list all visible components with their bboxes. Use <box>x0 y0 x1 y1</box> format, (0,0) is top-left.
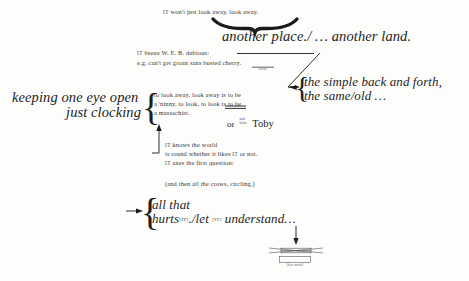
display-let: ./let <box>188 211 208 226</box>
line-top-body-text: won't just look away, look away. <box>170 8 258 15</box>
final-annotation-subtext: (how much) <box>279 264 311 267</box>
up-arrow-to-center-block <box>152 122 166 154</box>
manuscript-page: IT won't just look away, look away. anot… <box>0 0 469 281</box>
final-annotation-text: inset caption <box>270 250 322 253</box>
line-lower-body-3-text: axes the first question: <box>172 159 233 166</box>
small-caps-it: IT <box>163 9 169 15</box>
small-caps-it: IT <box>165 142 171 148</box>
display-another-place: another place./ … another land. <box>222 29 411 45</box>
down-arrow-final <box>291 226 301 246</box>
line-top-body: IT won't just look away, look away. <box>163 8 258 16</box>
display-hurts: hurts <box>152 211 179 226</box>
double-underline-to-be <box>225 105 246 110</box>
or-toby-group: or and kinte Toby <box>227 113 274 131</box>
line-lower-body-2: is round whether it likes IT or not. <box>165 150 257 158</box>
annotation-cherry-note: cooke <box>250 68 276 71</box>
toby-name: Toby <box>252 118 273 129</box>
line-beeze: IT beeze W. E. B. dubious: <box>137 49 209 57</box>
small-caps-it: IT <box>232 151 238 157</box>
line-lower-body-2-text-a: is round whether it likes <box>165 150 232 157</box>
final-annotation-subbox <box>279 256 311 263</box>
line-mid-body-3: a massachist. <box>154 109 190 117</box>
line-crows: (and then all the crows, circling.) <box>165 180 255 188</box>
or-label: or <box>227 119 235 129</box>
toby-superscript-group: and kinte <box>240 118 248 126</box>
display-just-clocking: just clocking <box>12 105 141 121</box>
display-hurts-let-understand: hurts[IT]./let [IT] understand… <box>152 212 296 228</box>
line-lower-body-2-text-b: or not. <box>240 150 258 157</box>
line-lower-body-3: IT axes the first question: <box>165 159 234 167</box>
toby-super-2: kinte <box>240 122 248 126</box>
line-mid-body-1: to look away, look away is to be <box>154 91 241 99</box>
display-understand: understand… <box>225 211 296 226</box>
line-lower-body-1-text: knows the world <box>172 141 217 148</box>
line-beeze-text: beeze W. E. B. dubious: <box>144 49 209 56</box>
small-caps-it: IT <box>137 50 143 56</box>
small-caps-it: IT <box>165 160 171 166</box>
line-lower-body-1: IT knows the world <box>165 141 217 149</box>
line-eg: e.g. can't get groan sans busted cherry. <box>137 59 241 67</box>
small-caps-it-bracketed: [IT] <box>212 217 221 222</box>
display-same-old: the same/old … <box>304 89 386 104</box>
